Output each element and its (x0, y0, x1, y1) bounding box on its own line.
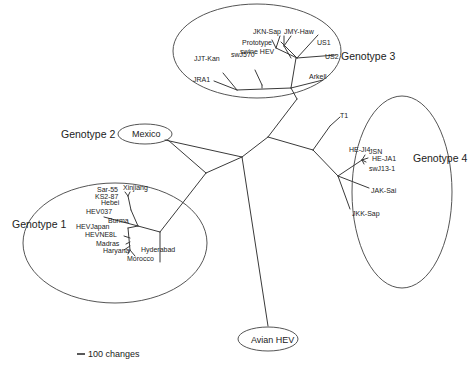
leaf-hev037: HEV037 (86, 208, 112, 215)
scale-bar-label: 100 changes (88, 349, 140, 359)
avian-hev-label: Avian HEV (251, 335, 294, 345)
genotype-2-label: Genotype 2 (61, 128, 115, 140)
leaf-arkell: Arkell (309, 73, 327, 80)
leaf-hyderabad: Hyderabad (141, 246, 175, 254)
leaf-swj570: swJ570 (231, 51, 255, 58)
leaf-burma: Burma (108, 217, 129, 224)
leaf-madras: Madras (96, 240, 120, 247)
leaf-prototype: Prototype (242, 39, 272, 47)
leaf-jjt-kan: JJT-Kan (194, 55, 220, 62)
leaf-hebei: Hebei (101, 199, 120, 206)
leaf-t1: T1 (340, 112, 348, 119)
leaf-haryana: Haryana (103, 247, 130, 255)
leaf-jmy-haw: JMY-Haw (284, 28, 315, 35)
leaf-hevne8l: HEVNE8L (85, 231, 117, 238)
leaf-jsn: JSN (369, 148, 382, 155)
leaf-xinjiang: Xinjiang (123, 184, 148, 192)
leaf-us1: US1 (317, 39, 331, 46)
genotype-4-label: Genotype 4 (413, 152, 467, 164)
leaf-he-ji4: HE-JI4 (349, 146, 371, 153)
mexico-label: Mexico (132, 129, 161, 139)
leaf-jkk-sap: JKK-Sap (352, 210, 380, 218)
genotype-1-label: Genotype 1 (12, 218, 66, 230)
leaf-us2: US2 (325, 53, 339, 60)
leaf-morocco: Morocco (127, 255, 154, 262)
leaf-sar-55: Sar-55 (97, 186, 118, 193)
leaf-swj13-1: swJ13-1 (369, 165, 395, 172)
leaf-he-ja1: HE-JA1 (372, 155, 396, 162)
phylogenetic-tree: Genotype 3 Genotype 4 Genotype 2 Genotyp… (0, 0, 473, 365)
leaf-jkn-sap: JKN-Sap (253, 28, 281, 36)
tree-branches (77, 35, 369, 354)
genotype-3-label: Genotype 3 (341, 50, 395, 62)
genotype-4-ellipse (352, 96, 452, 288)
leaf-jra1: JRA1 (193, 76, 210, 83)
leaf-jak-sai: JAK-Sai (371, 187, 397, 194)
leaf-hevjapan: HEVJapan (76, 223, 110, 231)
